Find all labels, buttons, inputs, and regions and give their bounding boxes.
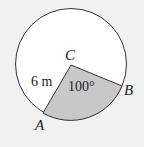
point-a-label: A: [34, 117, 45, 133]
point-b-label: B: [124, 82, 133, 98]
radius-label: 6 m: [31, 74, 53, 89]
center-label: C: [65, 47, 76, 63]
circle-sector-diagram: C A B 6 m 100°: [0, 0, 144, 147]
angle-label: 100°: [68, 79, 95, 94]
